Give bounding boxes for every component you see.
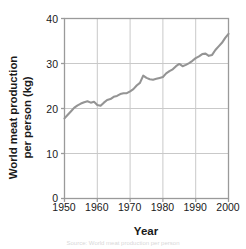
axis-ticks xyxy=(61,19,229,203)
chart-figure: World meat production per person (kg) 40… xyxy=(0,0,246,249)
gridlines xyxy=(65,19,229,199)
plot-area xyxy=(0,0,246,249)
source-credit: Source: World meat production per person xyxy=(0,240,246,246)
data-line-series-0 xyxy=(65,34,229,119)
